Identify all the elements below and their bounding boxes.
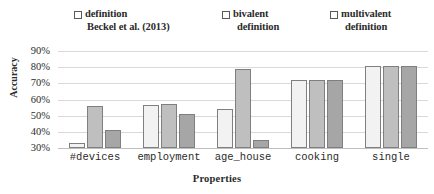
legend-swatch-icon-series-1 [222,11,230,19]
bar-age_house-series-1 [235,69,252,148]
y-axis-tick-label: 60% [31,95,50,105]
chart-container: definition Beckel et al. (2013) bivalent… [0,0,434,194]
y-axis-tick-label: 50% [31,111,50,121]
bar-employment-series-2 [179,114,196,148]
x-axis-line [58,148,428,149]
legend-swatch-icon-series-0 [74,11,82,19]
plot-area [58,51,428,148]
legend-label-series-1-line2: definition [233,21,279,34]
bar-series-group [58,51,428,148]
y-axis-tick-labels: 90%80%70%60%50%40%30% [0,51,54,148]
bar-single-series-1 [383,66,400,148]
y-axis-tick-label: 70% [31,78,50,88]
legend-item-multivalent-definition: multivalent definition [330,8,391,33]
y-axis-tick-label: 40% [31,127,50,137]
legend-label-series-1-line1: bivalent [233,8,268,19]
x-axis-tick-labels: #devicesemploymentage_housecookingsingle [58,151,428,167]
y-axis-tick-label: 30% [31,143,50,153]
x-axis-tick-label-#devices: #devices [58,151,132,163]
bar-single-series-2 [401,66,418,148]
legend-label-series-2-line1: multivalent [341,8,391,19]
legend-item-bivalent-definition: bivalent definition [222,8,279,33]
y-axis-tick-label: 90% [31,46,50,56]
legend-swatch-icon-series-2 [330,11,338,19]
y-axis-tick-label: 80% [31,62,50,72]
legend-label-series-0-line1: definition [85,8,127,19]
bar-age_house-series-0 [217,109,234,148]
legend-label-series-0: definition Beckel et al. (2013) [85,8,170,33]
x-axis-title: Properties [0,173,434,184]
legend-label-series-2-line2: definition [341,21,391,34]
bar-employment-series-1 [161,104,178,148]
bar-#devices-series-2 [105,130,122,148]
legend-label-series-1: bivalent definition [233,8,279,33]
x-axis-tick-label-cooking: cooking [280,151,354,163]
bar-cooking-series-1 [309,80,326,148]
chart-legend: definition Beckel et al. (2013) bivalent… [0,4,434,40]
bar-cooking-series-2 [327,80,344,148]
legend-label-series-2: multivalent definition [341,8,391,33]
x-axis-tick-label-age_house: age_house [206,151,280,163]
bar-employment-series-0 [143,105,160,148]
bar-age_house-series-2 [253,140,270,148]
bar-cooking-series-0 [291,80,308,148]
legend-item-definition-beckel: definition Beckel et al. (2013) [74,8,170,33]
x-axis-tick-label-single: single [354,151,428,163]
x-axis-tick-label-employment: employment [132,151,206,163]
legend-label-series-0-line2: Beckel et al. (2013) [85,21,170,34]
bar-#devices-series-1 [87,106,104,148]
bar-single-series-0 [365,66,382,148]
